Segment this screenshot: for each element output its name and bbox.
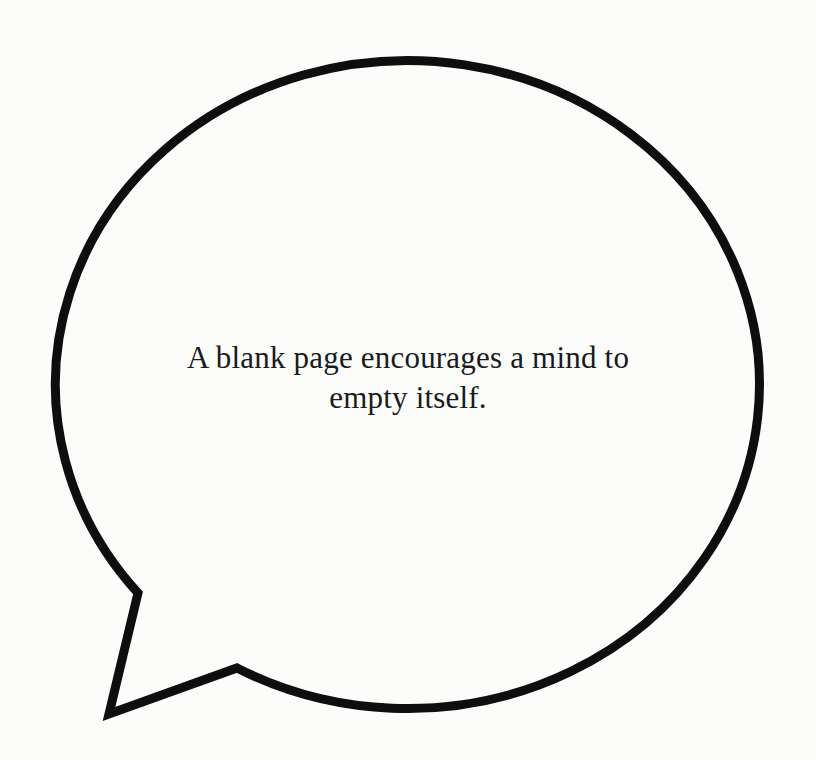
bubble-quote-line-2: empty itself. xyxy=(0,378,816,418)
bubble-quote: A blank page encourages a mind to empty … xyxy=(0,338,816,418)
bubble-quote-line-1: A blank page encourages a mind to xyxy=(0,338,816,378)
page-background: A blank page encourages a mind to empty … xyxy=(0,0,816,760)
